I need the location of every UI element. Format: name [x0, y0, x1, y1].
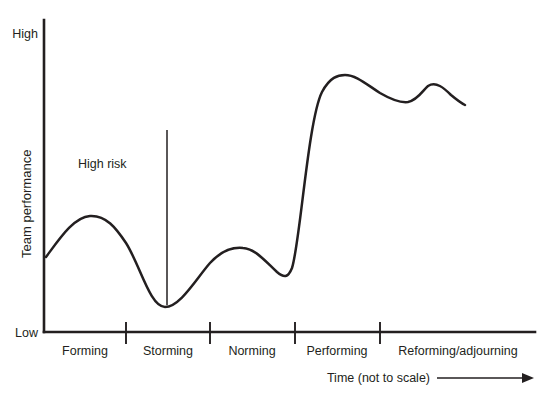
chart-canvas: High Low Team performance High risk Form…	[0, 0, 542, 399]
tuckman-team-performance-chart: High Low Team performance High risk Form…	[0, 0, 542, 399]
y-axis-title: Team performance	[19, 150, 34, 258]
time-arrow-head-icon	[522, 373, 534, 383]
time-axis-label: Time (not to scale)	[327, 371, 430, 385]
y-axis-high-label: High	[12, 27, 38, 41]
high-risk-annotation-label: High risk	[78, 157, 127, 171]
team-performance-curve	[46, 75, 465, 307]
stage-label-storming: Storming	[143, 344, 193, 358]
stage-label-performing: Performing	[306, 344, 367, 358]
stage-label-forming: Forming	[62, 344, 108, 358]
stage-label-norming: Norming	[228, 344, 275, 358]
stage-label-reforming-adjourning: Reforming/adjourning	[398, 344, 518, 358]
y-axis-low-label: Low	[15, 326, 39, 340]
